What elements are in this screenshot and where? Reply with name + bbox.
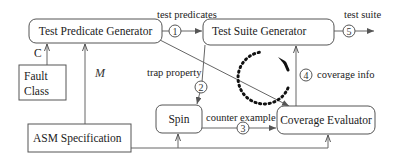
label-c: C [34,47,42,59]
node-label: Coverage Evaluator [280,114,372,127]
edge-tsg-to-step2 [202,45,205,82]
label-counter-example: counter example [206,112,276,123]
label-m: M [94,66,106,80]
node-asm-specification: ASM Specification [28,124,131,152]
node-coverage-evaluator: Coverage Evaluator [277,106,375,134]
node-test-suite-generator: Test Suite Generator [203,19,334,45]
label-test-suite: test suite [344,9,381,20]
feedback-loop-arrow-stem [285,63,288,70]
label-coverage-info: coverage info [317,69,374,80]
edge-step2-to-spin [197,92,200,104]
label-test-predicates: test predicates [157,9,217,20]
step-3-marker: 3 [237,122,249,134]
step-5-marker: 5 [343,25,355,37]
step-2-marker: 2 [195,81,207,93]
step-4-marker: 4 [300,69,312,81]
node-label: ASM Specification [33,132,122,145]
svg-text:1: 1 [173,26,178,37]
svg-text:4: 4 [304,70,309,81]
step-1-marker: 1 [169,25,181,37]
svg-text:5: 5 [347,26,352,37]
svg-text:3: 3 [241,123,246,134]
test-generation-diagram: Test Predicate Generator Test Suite Gene… [0,0,400,162]
node-test-predicate-generator: Test Predicate Generator [29,19,162,43]
node-label-line2: Class [24,85,49,97]
svg-text:2: 2 [199,82,204,93]
node-label: Test Predicate Generator [39,25,153,37]
node-fault-class: Fault Class [19,65,66,100]
node-label: Test Suite Generator [212,25,307,37]
label-trap-property: trap property [147,67,202,78]
node-label-line1: Fault [24,70,48,82]
node-label: Spin [168,113,189,126]
node-spin: Spin [156,105,202,133]
edge-asm-to-coverage-evaluator [131,135,328,148]
